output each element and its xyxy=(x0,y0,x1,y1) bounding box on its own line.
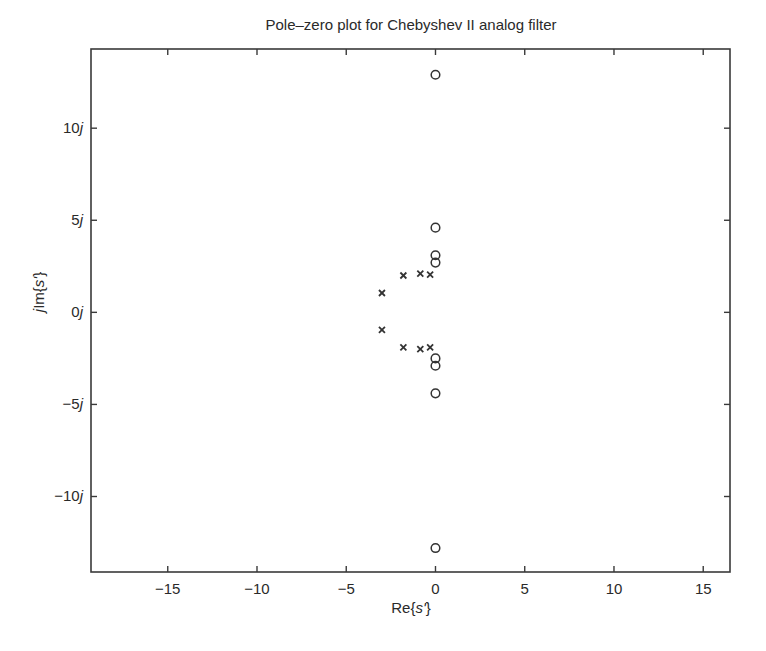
pole-marker xyxy=(417,346,423,352)
x-axis: −15−10−5051015 xyxy=(155,49,712,597)
plot-area xyxy=(91,49,730,572)
data-markers xyxy=(379,70,440,552)
x-tick-label: 10 xyxy=(606,580,623,597)
y-axis: 10j5j0j−5j−10j xyxy=(54,119,730,504)
x-tick-label: 15 xyxy=(695,580,712,597)
y-tick-label: −5j xyxy=(63,395,84,412)
pole-marker xyxy=(400,273,406,279)
pole-marker xyxy=(400,344,406,350)
pole-marker xyxy=(427,344,433,350)
y-tick-label: 0j xyxy=(71,303,83,320)
chart-title: Pole–zero plot for Chebyshev II analog f… xyxy=(266,16,557,33)
x-tick-label: 0 xyxy=(431,580,439,597)
y-axis-label: jIm{s'} xyxy=(30,272,47,314)
zero-marker xyxy=(431,70,440,79)
x-tick-label: −15 xyxy=(155,580,180,597)
zero-marker xyxy=(431,544,440,553)
y-tick-label: 10j xyxy=(63,119,84,136)
x-tick-label: 5 xyxy=(521,580,529,597)
plot-frame xyxy=(91,49,730,572)
pole-marker xyxy=(379,290,385,296)
pole-marker xyxy=(379,327,385,333)
x-axis-label: Re{s'} xyxy=(391,599,431,616)
pole-marker xyxy=(417,271,423,277)
zero-marker xyxy=(431,389,440,398)
pole-zero-chart: Pole–zero plot for Chebyshev II analog f… xyxy=(0,0,766,651)
y-tick-label: −10j xyxy=(54,487,83,504)
pole-marker xyxy=(427,272,433,278)
zero-marker xyxy=(431,223,440,232)
y-tick-label: 5j xyxy=(71,211,83,228)
x-tick-label: −10 xyxy=(244,580,269,597)
x-tick-label: −5 xyxy=(338,580,355,597)
